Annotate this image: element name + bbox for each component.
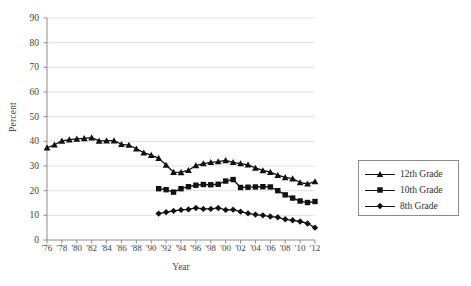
legend-label-12th-grade: 12th Grade <box>395 169 442 179</box>
y-axis-title: Percent <box>8 82 18 152</box>
chart-figure: 0102030405060708090 '76'78'80'82'84'86'8… <box>0 0 471 286</box>
chart-legend: 12th Grade 10th Grade 8th Grade <box>358 160 459 216</box>
y-axis-ticks <box>44 18 48 240</box>
y-tick-label: 10 <box>13 210 39 220</box>
legend-item-8th-grade[interactable]: 8th Grade <box>359 198 458 214</box>
series-12th-grade <box>44 134 319 186</box>
y-tick-label: 30 <box>13 161 39 171</box>
y-tick-label: 90 <box>13 13 39 23</box>
square-marker-icon <box>365 184 395 196</box>
data-series-layer <box>44 134 319 231</box>
y-tick-label: 20 <box>13 186 39 196</box>
y-tick-label: 70 <box>13 62 39 72</box>
triangle-marker-icon <box>365 168 395 180</box>
x-axis-title: Year <box>47 262 315 272</box>
axis-lines <box>47 18 315 240</box>
legend-item-12th-grade[interactable]: 12th Grade <box>359 166 458 182</box>
series-8th-grade <box>155 205 318 231</box>
y-tick-label: 80 <box>13 38 39 48</box>
legend-label-10th-grade: 10th Grade <box>395 185 442 195</box>
diamond-marker-icon <box>365 200 395 212</box>
gridlines <box>47 18 315 215</box>
legend-label-8th-grade: 8th Grade <box>395 201 438 211</box>
legend-item-10th-grade[interactable]: 10th Grade <box>359 182 458 198</box>
x-tick-label: '12 <box>304 243 326 253</box>
